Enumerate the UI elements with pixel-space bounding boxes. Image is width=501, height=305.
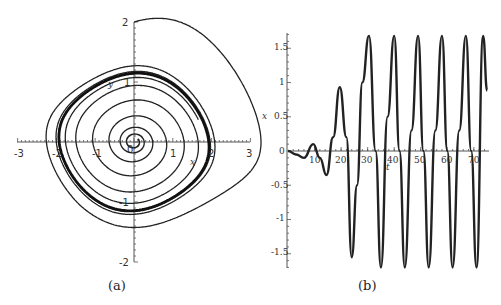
caption-b: (b)	[358, 278, 376, 293]
b-xtick-label: 20	[335, 155, 347, 165]
a-xtick-label: 3	[246, 148, 252, 159]
a-xtick-label: -1	[92, 148, 102, 159]
panel-a-phase-portrait: -3 -2 -1 0 1 2 3 2 1 -1 -2 y x (a)	[14, 17, 261, 293]
b-xtick-label: 70	[468, 155, 480, 165]
figure: -3 -2 -1 0 1 2 3 2 1 -1 -2 y x (a) 10 20…	[0, 0, 501, 305]
b-ytick-label: -0.5	[271, 180, 289, 190]
a-ytick-label: 2	[122, 17, 128, 28]
b-ytick-label: -1.5	[271, 247, 289, 257]
b-xtick-label: 60	[441, 155, 453, 165]
b-ytick-label: 1.5	[274, 42, 289, 52]
a-ticks	[18, 22, 251, 262]
x-of-t-curve	[288, 36, 487, 268]
b-xtick-label: 30	[361, 155, 373, 165]
trajectory-inner	[65, 78, 198, 204]
b-ytick-label: -1	[276, 213, 285, 223]
b-y-axis-label: x	[262, 111, 267, 121]
b-x-axis-label: t	[386, 162, 390, 172]
a-ytick-label: -2	[119, 257, 129, 268]
b-series	[288, 36, 487, 268]
a-xtick-label: 1	[170, 148, 176, 159]
b-ytick-label: 1	[279, 77, 285, 87]
a-trajectories	[46, 18, 261, 227]
a-xtick-label: -3	[14, 148, 24, 159]
b-ytick-label: 0.5	[274, 111, 289, 121]
b-ytick-label: 0	[279, 146, 285, 156]
panel-b-time-series: 10 20 30 40 50 60 70 1.5 1 0.5 0 -0.5 -1…	[262, 33, 489, 293]
caption-a: (a)	[108, 278, 126, 293]
